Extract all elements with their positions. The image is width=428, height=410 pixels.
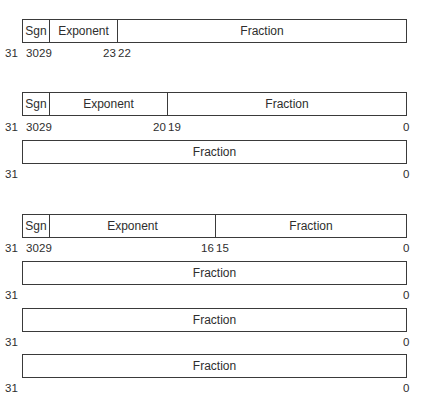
bit-label: 0	[403, 336, 409, 348]
sign-label: Sgn	[25, 24, 46, 38]
sign-label: Sgn	[25, 97, 46, 111]
fraction-field: Fraction	[23, 309, 406, 331]
sign-field: Sgn	[23, 20, 50, 42]
fraction-label: Fraction	[193, 145, 236, 159]
word-0-box: Sgn Exponent Fraction	[22, 92, 407, 116]
bit-label: 22	[118, 47, 131, 59]
fraction-label: Fraction	[193, 266, 236, 280]
bit-label: 29	[39, 47, 52, 59]
bit-label: 29	[39, 121, 52, 133]
bit-label: 31	[5, 382, 18, 394]
exponent-field: Exponent	[50, 20, 118, 42]
fraction-label: Fraction	[240, 24, 283, 38]
bit-label: 31	[5, 289, 18, 301]
word-2-box: Fraction	[22, 308, 407, 332]
sign-label: Sgn	[25, 219, 46, 233]
bit-label: 15	[216, 242, 229, 254]
exponent-label: Exponent	[83, 97, 134, 111]
fraction-label: Fraction	[193, 313, 236, 327]
fraction-field: Fraction	[168, 93, 406, 115]
fraction-field: Fraction	[118, 20, 406, 42]
bit-label: 30	[26, 121, 39, 133]
fraction-label: Fraction	[265, 97, 308, 111]
word-3-box: Fraction	[22, 354, 407, 378]
bit-label: 0	[403, 168, 409, 180]
fraction-label: Fraction	[289, 219, 332, 233]
exponent-field: Exponent	[50, 215, 216, 237]
bit-label: 31	[5, 121, 18, 133]
bit-label: 19	[168, 121, 181, 133]
bit-label: 20	[153, 121, 166, 133]
bit-label: 31	[5, 336, 18, 348]
exponent-field: Exponent	[50, 93, 168, 115]
fraction-field: Fraction	[23, 141, 406, 163]
bit-label: 0	[403, 242, 409, 254]
bit-label: 0	[403, 121, 409, 133]
word-0-box: Sgn Exponent Fraction	[22, 214, 407, 238]
fraction-field: Fraction	[216, 215, 406, 237]
bit-label: 31	[5, 168, 18, 180]
fraction-label: Fraction	[193, 359, 236, 373]
bit-label: 0	[403, 382, 409, 394]
sign-field: Sgn	[23, 215, 50, 237]
exponent-label: Exponent	[107, 219, 158, 233]
bit-label: 0	[403, 289, 409, 301]
bit-label: 30	[26, 242, 39, 254]
word-1-box: Fraction	[22, 140, 407, 164]
sign-field: Sgn	[23, 93, 50, 115]
bit-label: 31	[5, 47, 18, 59]
fraction-field: Fraction	[23, 355, 406, 377]
bit-label: 31	[5, 242, 18, 254]
bit-label: 23	[103, 47, 116, 59]
word-0-box: Sgn Exponent Fraction	[22, 19, 407, 43]
fraction-field: Fraction	[23, 262, 406, 284]
bit-label: 16	[201, 242, 214, 254]
bit-label: 30	[26, 47, 39, 59]
bit-label: 29	[39, 242, 52, 254]
word-1-box: Fraction	[22, 261, 407, 285]
exponent-label: Exponent	[58, 24, 109, 38]
